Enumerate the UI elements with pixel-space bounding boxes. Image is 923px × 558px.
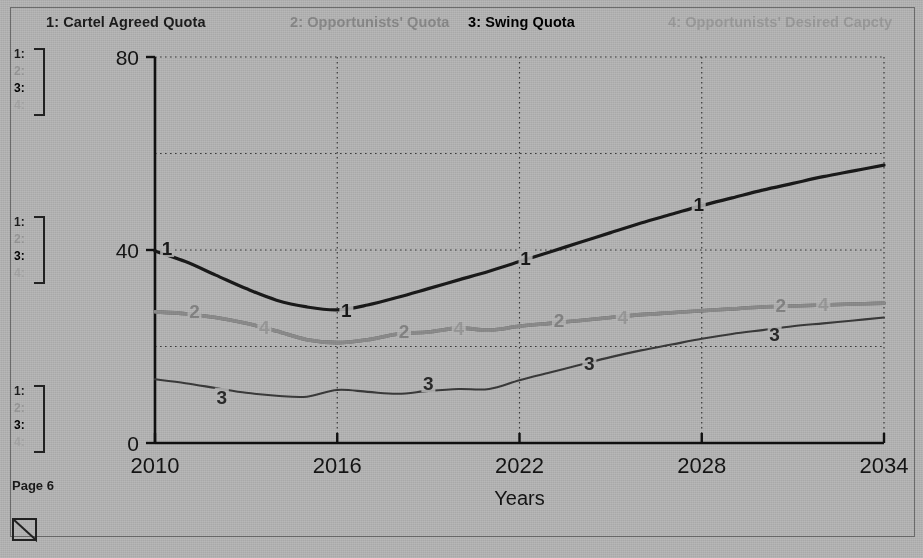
y-tick-label: 80 bbox=[116, 46, 139, 69]
series-tag-2: 2 bbox=[399, 321, 410, 342]
line-chart-svg: 1111222233334444 04080201020162022202820… bbox=[0, 0, 923, 558]
series-tag-4: 4 bbox=[453, 318, 464, 339]
x-axis-title: Years bbox=[494, 487, 544, 509]
series-tag-3: 3 bbox=[584, 353, 595, 374]
series-tag-4: 4 bbox=[259, 317, 270, 338]
plot-area: 1111222233334444 04080201020162022202820… bbox=[0, 0, 923, 558]
series-tag-1: 1 bbox=[520, 248, 531, 269]
series-tag-3: 3 bbox=[769, 324, 780, 345]
x-tick-label: 2016 bbox=[313, 453, 362, 478]
series-tag-1: 1 bbox=[341, 300, 352, 321]
series-tag-3: 3 bbox=[423, 373, 434, 394]
y-tick-label: 40 bbox=[116, 239, 139, 262]
x-tick-label: 2034 bbox=[860, 453, 909, 478]
series-tag-3: 3 bbox=[217, 387, 228, 408]
x-tick-label: 2010 bbox=[131, 453, 180, 478]
axis-labels: 0408020102016202220282034Years bbox=[116, 46, 909, 509]
y-tick-label: 0 bbox=[127, 432, 139, 455]
x-tick-label: 2028 bbox=[677, 453, 726, 478]
series-tag-2: 2 bbox=[554, 310, 565, 331]
series-tag-1: 1 bbox=[162, 238, 173, 259]
series-tag-4: 4 bbox=[818, 294, 829, 315]
series-inline-tags: 1111222233334444 bbox=[160, 194, 830, 408]
x-tick-label: 2022 bbox=[495, 453, 544, 478]
series-tag-1: 1 bbox=[693, 194, 704, 215]
series-tag-2: 2 bbox=[189, 301, 200, 322]
chart-screenshot: 1: Cartel Agreed Quota 2: Opportunists' … bbox=[0, 0, 923, 558]
series-tag-2: 2 bbox=[775, 295, 786, 316]
series-tag-4: 4 bbox=[617, 307, 628, 328]
